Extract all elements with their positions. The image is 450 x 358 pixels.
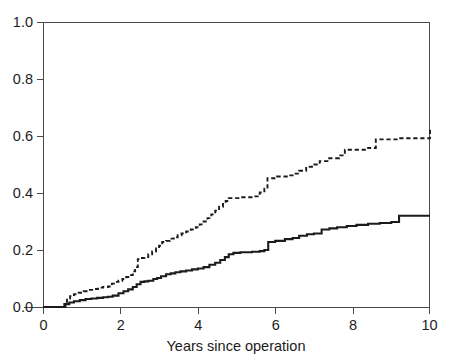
- y-tick-label-3: 0.6: [13, 128, 33, 144]
- x-tick-label-4: 8: [349, 317, 357, 333]
- y-tick-label-4: 0.8: [13, 71, 33, 87]
- chart-figure: 0.0 0.2 0.4 0.6 0.8 1.0 0 2 4 6 8 10 Yea…: [0, 0, 450, 358]
- x-tick-label-5: 10: [421, 317, 437, 333]
- x-tick-label-2: 4: [194, 317, 202, 333]
- y-tick-label-0: 0.0: [13, 299, 33, 315]
- x-tick-label-1: 2: [117, 317, 125, 333]
- y-axis-ticks: 0.0 0.2 0.4 0.6 0.8 1.0: [13, 14, 44, 315]
- axes-frame: [24, 22, 430, 308]
- y-tick-label-2: 0.4: [13, 185, 33, 201]
- cumulative-incidence-chart: 0.0 0.2 0.4 0.6 0.8 1.0 0 2 4 6 8 10 Yea…: [0, 0, 450, 358]
- x-axis-ticks: 0 2 4 6 8 10: [39, 308, 437, 334]
- y-tick-label-1: 0.2: [13, 242, 33, 258]
- series-group: [43, 127, 430, 307]
- series-upper-dashed-curve: [43, 127, 430, 307]
- y-tick-label-5: 1.0: [13, 14, 33, 30]
- x-tick-label-0: 0: [39, 317, 47, 333]
- x-tick-label-3: 6: [272, 317, 280, 333]
- series-lower-solid-curve: [43, 216, 430, 307]
- x-axis-title: Years since operation: [167, 338, 306, 354]
